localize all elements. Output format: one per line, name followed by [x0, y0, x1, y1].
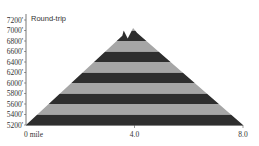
x-tick-label: 0 mile: [24, 130, 44, 139]
y-axis: 5200'5400'5600'5800'6000'6200'6400'6600'…: [7, 14, 26, 130]
elevation-band: [26, 94, 243, 105]
elevation-bands: [26, 20, 243, 125]
x-axis: 0 mile4.08.0: [24, 125, 248, 139]
y-tick-label: 6800': [7, 37, 24, 46]
chart-title: Round-trip: [31, 14, 66, 23]
elevation-profile-chart: 5200'5400'5600'5800'6000'6200'6400'6600'…: [0, 0, 259, 146]
y-tick-label: 6600': [7, 47, 24, 56]
elevation-band: [26, 52, 243, 63]
y-tick-label: 7000': [7, 26, 24, 35]
y-tick-label: 5200': [7, 121, 24, 130]
elevation-band: [26, 73, 243, 84]
elevation-band: [26, 104, 243, 115]
y-tick-label: 5800': [7, 89, 24, 98]
y-tick-label: 5600': [7, 100, 24, 109]
y-tick-label: 5400': [7, 110, 24, 119]
elevation-band: [26, 115, 243, 126]
y-tick-label: 6000': [7, 79, 24, 88]
x-tick-label: 8.0: [238, 130, 248, 139]
y-tick-label: 6200': [7, 68, 24, 77]
x-tick-label: 4.0: [130, 130, 140, 139]
elevation-band: [26, 41, 243, 52]
elevation-band: [26, 62, 243, 73]
elevation-band: [26, 31, 243, 42]
y-tick-label: 7200': [7, 16, 24, 25]
elevation-band: [26, 83, 243, 94]
y-tick-label: 6400': [7, 58, 24, 67]
